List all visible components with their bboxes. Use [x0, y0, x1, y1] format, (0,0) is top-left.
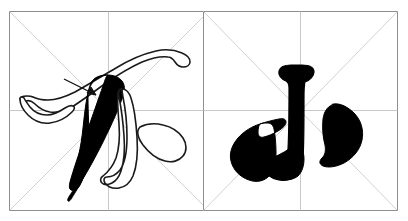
- grid-cell-left: [9, 11, 209, 211]
- calligraphy-practice-sheet: [0, 0, 408, 221]
- stroke-dian-outline: [138, 124, 186, 162]
- grid-pair: [0, 0, 408, 221]
- character-bu-glyph: [9, 11, 209, 211]
- grid-cell-right: [203, 11, 398, 211]
- stroke-youdian-filled: [320, 104, 363, 167]
- character-xiao-glyph: [203, 11, 398, 211]
